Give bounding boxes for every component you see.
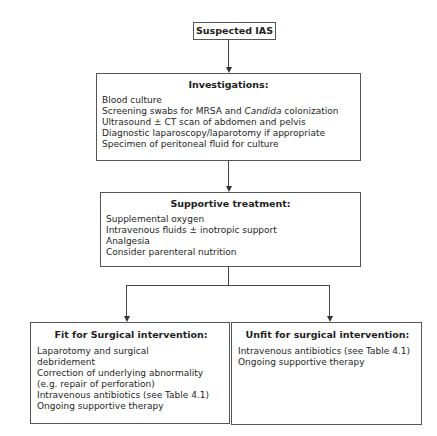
supportive-item: Intravenous fluids ± inotropic support — [106, 225, 360, 236]
fit-item: Ongoing supportive therapy — [37, 401, 212, 412]
investigation-item: Specimen of peritoneal fluid for culture — [102, 139, 360, 150]
unfit-surgical-node: Unfit for surgical intervention: Intrave… — [231, 322, 422, 425]
investigations-title: Investigations: — [102, 79, 360, 91]
investigations-node: Investigations: Blood culture Screening … — [96, 73, 361, 161]
supportive-title: Supportive treatment: — [106, 198, 360, 210]
fit-item: Correction of underlying abnormality (e.… — [37, 368, 212, 390]
unfit-item: Ongoing supportive therapy — [238, 357, 417, 368]
fit-item: Intravenous antibiotics (see Table 4.1) — [37, 390, 212, 401]
supportive-list: Supplemental oxygen Intravenous fluids ±… — [106, 214, 360, 258]
fit-surgical-list: Laparotomy and surgical debridement Corr… — [37, 346, 212, 412]
investigation-item: Diagnostic laparoscopy/laparotomy if app… — [102, 128, 360, 139]
investigation-item-text: Screening swabs for MRSA and — [102, 106, 245, 116]
investigation-item: Ultrasound ± CT scan of abdomen and pelv… — [102, 117, 360, 128]
fit-surgical-title: Fit for Surgical intervention: — [37, 329, 225, 341]
connector-supportive-branch — [228, 267, 229, 286]
connector-investigations-supportive — [228, 161, 229, 187]
unfit-item: Intravenous antibiotics (see Table 4.1) — [238, 346, 417, 357]
connector-branch-horizontal — [126, 285, 330, 286]
investigations-list: Blood culture Screening swabs for MRSA a… — [102, 95, 360, 150]
connector-start-investigations — [228, 40, 229, 68]
start-node: Suspected IAS — [193, 22, 276, 40]
supportive-item: Analgesia — [106, 236, 360, 247]
supportive-item: Supplemental oxygen — [106, 214, 360, 225]
investigation-item: Blood culture — [102, 95, 360, 106]
fit-item: Laparotomy and surgical debridement — [37, 346, 157, 368]
start-node-label: Suspected IAS — [194, 23, 275, 38]
investigation-item-tail: colonization — [281, 106, 338, 116]
unfit-surgical-list: Intravenous antibiotics (see Table 4.1) … — [238, 346, 417, 368]
connector-branch-right — [329, 285, 330, 317]
supportive-node: Supportive treatment: Supplemental oxyge… — [100, 192, 361, 267]
connector-branch-left — [126, 285, 127, 317]
unfit-surgical-title: Unfit for surgical intervention: — [238, 329, 417, 341]
fit-surgical-node: Fit for Surgical intervention: Laparotom… — [30, 322, 230, 424]
supportive-item: Consider parenteral nutrition — [106, 247, 360, 258]
investigation-item: Screening swabs for MRSA and Candida col… — [102, 106, 360, 117]
investigation-item-italic: Candida — [245, 106, 282, 116]
